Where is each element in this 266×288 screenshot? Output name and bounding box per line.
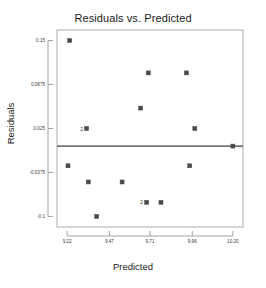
y-tick-label: 0.025 <box>34 126 46 131</box>
data-point-marker <box>85 127 89 131</box>
x-axis: 9.229.479.719.9610.20 <box>63 231 239 244</box>
data-point-marker <box>86 180 90 184</box>
data-point-count-label: 2 <box>140 199 143 205</box>
data-point-marker <box>139 106 143 110</box>
y-tick-label: 0.0875 <box>31 82 45 87</box>
y-tick-label: 0.15 <box>36 38 45 43</box>
data-point-marker <box>145 200 149 204</box>
y-tick-label: -0.1 <box>37 214 45 219</box>
data-point-marker <box>159 200 163 204</box>
y-tick-label: -0.0375 <box>29 170 45 175</box>
x-tick-label: 9.71 <box>146 239 155 244</box>
x-tick-label: 9.22 <box>63 239 72 244</box>
data-point-marker <box>66 164 70 168</box>
x-tick-label: 9.47 <box>105 239 114 244</box>
y-axis: 0.150.08750.025-0.0375-0.1 <box>29 38 53 219</box>
data-point-marker <box>184 71 188 75</box>
plot-area: 0.150.08750.025-0.0375-0.1 9.229.479.719… <box>0 0 266 288</box>
data-point-marker <box>193 127 197 131</box>
data-point-marker <box>68 39 72 43</box>
data-point-marker <box>231 144 235 148</box>
x-tick-label: 10.20 <box>227 239 239 244</box>
x-tick-label: 9.96 <box>188 239 197 244</box>
data-point-marker <box>120 180 124 184</box>
data-point-marker <box>146 71 150 75</box>
residuals-scatter-chart: Residuals vs. Predicted Residuals Predic… <box>0 0 266 288</box>
data-point-count-label: 2 <box>80 126 83 132</box>
data-point-marker <box>95 214 99 218</box>
data-point-marker <box>188 164 192 168</box>
